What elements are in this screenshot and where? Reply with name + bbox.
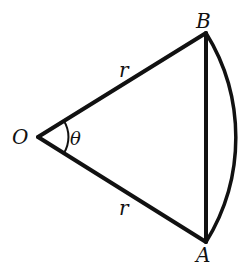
radius-label-lower: r <box>119 196 130 220</box>
angle-label-theta: θ <box>70 128 81 149</box>
arc-ab <box>206 33 236 242</box>
point-label-b: B <box>195 9 211 33</box>
angle-theta-mark <box>64 121 68 153</box>
radius-label-upper: r <box>119 58 130 82</box>
radius-ob <box>38 33 206 137</box>
radius-oa <box>38 137 206 242</box>
sector-diagram: O B A r r θ <box>0 0 248 266</box>
point-label-a: A <box>194 243 210 266</box>
point-label-o: O <box>12 125 28 149</box>
